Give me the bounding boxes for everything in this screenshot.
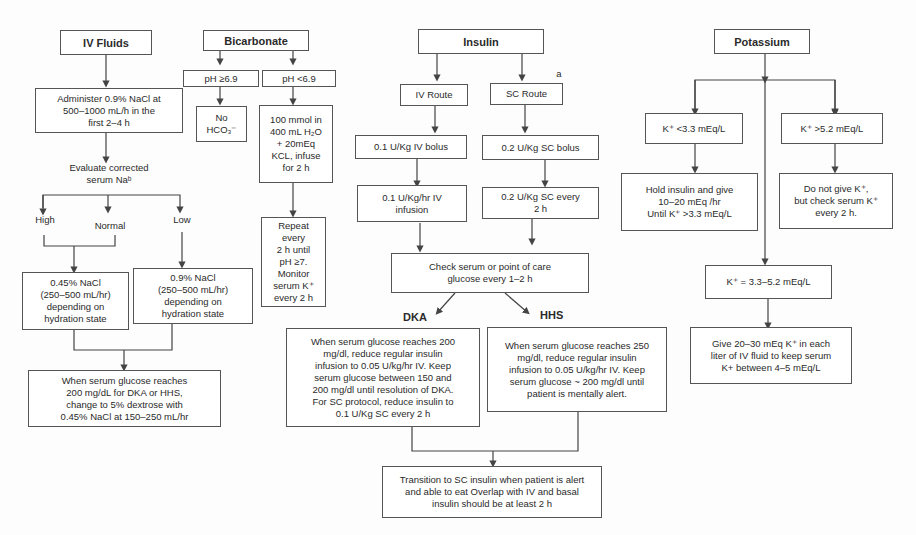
iv-bolus-box: 0.1 U/Kg IV bolus	[355, 135, 467, 159]
administer-saline-box: Administer 0.9% NaCl at 500–1000 mL/h in…	[35, 88, 183, 133]
hhs-protocol-box: When serum glucose reaches 250 mg/dl, re…	[487, 327, 667, 412]
branch-high-label: High	[30, 214, 60, 226]
dka-protocol-box: When serum glucose reaches 200 mg/dl, re…	[286, 328, 480, 427]
check-glucose-box: Check serum or point of care glucose eve…	[391, 253, 589, 293]
potassium-high-action-box: Do not give K⁺, but check serum K⁺ every…	[779, 173, 893, 229]
iv-infusion-box: 0.1 U/Kg/hr IV infusion	[357, 185, 467, 222]
potassium-low-box: K⁺ <3.3 mEq/L	[645, 113, 743, 144]
ph-high-box: pH ≥6.9	[183, 70, 259, 87]
normal-saline-box: 0.9% NaCl (250–500 mL/hr) depending on h…	[133, 268, 253, 324]
potassium-normal-box: K⁺ = 3.3–5.2 mEq/L	[705, 265, 832, 299]
repeat-bicarbonate-box: Repeat every 2 h until pH ≥7. Monitor se…	[261, 217, 326, 307]
evaluate-sodium-text: Evaluate corrected serum Naᵇ	[55, 162, 163, 186]
dka-label: DKA	[403, 311, 427, 323]
dka-hhs-management-flowchart: IV Fluids Administer 0.9% NaCl at 500–10…	[0, 0, 916, 535]
potassium-high-box: K⁺ >5.2 mEq/L	[781, 113, 883, 144]
bicarbonate-header: Bicarbonate	[203, 30, 309, 51]
branch-normal-label: Normal	[90, 220, 130, 232]
sc-bolus-box: 0.2 U/Kg SC bolus	[482, 135, 599, 160]
dextrose-switch-box: When serum glucose reaches 200 mg/dL for…	[28, 370, 221, 427]
sc-route-box: SC Route	[490, 83, 563, 105]
bicarbonate-infusion-box: 100 mmol in 400 mL H₂O + 20mEq KCL, infu…	[259, 105, 333, 183]
sc-route-footnote: a	[554, 68, 564, 80]
transition-sc-box: Transition to SC insulin when patient is…	[382, 466, 602, 518]
potassium-low-action-box: Hold insulin and give 10–20 mEq /hr Unti…	[621, 173, 758, 231]
ph-low-box: pH <6.9	[262, 70, 336, 87]
half-saline-box: 0.45% NaCl (250–500 mL/hr) depending on …	[22, 272, 129, 330]
iv-route-box: IV Route	[400, 84, 468, 106]
no-bicarbonate-box: No HCO₃⁻	[196, 106, 247, 142]
hhs-label: HHS	[540, 309, 563, 321]
insulin-header: Insulin	[418, 29, 544, 54]
potassium-header: Potassium	[714, 29, 810, 54]
iv-fluids-header: IV Fluids	[60, 30, 152, 55]
branch-low-label: Low	[168, 214, 196, 226]
sc-every-2h-box: 0.2 U/Kg SC every 2 h	[482, 187, 599, 219]
potassium-normal-action-box: Give 20–30 mEq K⁺ in each liter of IV fl…	[690, 327, 852, 384]
